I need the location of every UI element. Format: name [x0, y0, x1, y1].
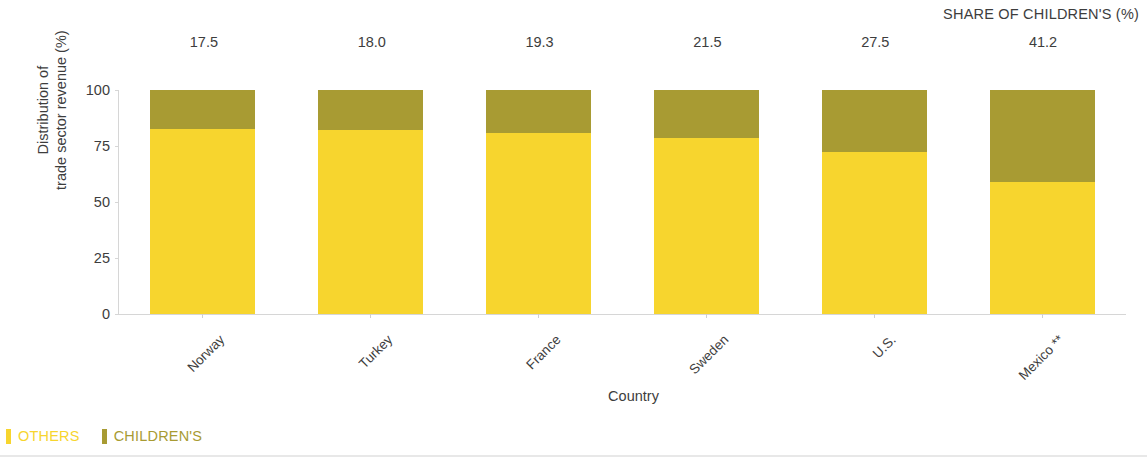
data-label: 18.0 — [317, 34, 427, 50]
data-label-row: 17.518.019.321.527.541.2 — [120, 34, 1125, 56]
y-axis-tick-label: 0 — [102, 306, 110, 322]
y-axis-tick-mark — [115, 258, 119, 259]
bar-turkey[interactable] — [318, 90, 423, 314]
share-of-childrens-header: SHARE OF CHILDREN'S (%) — [943, 6, 1139, 22]
bar-segment-others[interactable] — [318, 130, 423, 314]
bar-france[interactable] — [486, 90, 591, 314]
y-axis-tick-label: 50 — [94, 194, 110, 210]
legend-item[interactable]: CHILDREN'S — [102, 428, 203, 444]
bar-mexico[interactable] — [990, 90, 1095, 314]
x-axis-tick-mark — [202, 314, 203, 318]
bar-segment-childrens[interactable] — [990, 90, 1095, 182]
x-axis-tick-label: Norway — [185, 332, 228, 375]
x-axis-tick-mark — [1042, 314, 1043, 318]
x-axis-tick-label: Mexico ** — [1016, 332, 1067, 383]
bar-segment-others[interactable] — [150, 129, 255, 314]
legend-item[interactable]: OTHERS — [6, 428, 80, 444]
bar-segment-others[interactable] — [486, 133, 591, 314]
bar-segment-childrens[interactable] — [318, 90, 423, 130]
x-axis-tick-mark — [874, 314, 875, 318]
data-label: 19.3 — [485, 34, 595, 50]
legend: OTHERSCHILDREN'S — [6, 428, 202, 444]
x-axis-title: Country — [0, 388, 1147, 404]
bar-segment-others[interactable] — [990, 182, 1095, 314]
y-axis-tick-mark — [115, 90, 119, 91]
x-axis-title-text: Country — [608, 388, 659, 404]
bar-segment-childrens[interactable] — [486, 90, 591, 133]
bar-sweden[interactable] — [654, 90, 759, 314]
y-axis-tick-label: 100 — [86, 82, 110, 98]
y-axis-tick-label: 25 — [94, 250, 110, 266]
bar-segment-childrens[interactable] — [654, 90, 759, 138]
data-label: 21.5 — [652, 34, 762, 50]
y-axis-tick-label: 75 — [94, 138, 110, 154]
x-axis-tick-mark — [538, 314, 539, 318]
legend-swatch-icon — [102, 429, 107, 444]
bar-norway[interactable] — [150, 90, 255, 314]
x-axis-tick-mark — [706, 314, 707, 318]
data-label: 17.5 — [149, 34, 259, 50]
legend-label: OTHERS — [18, 428, 80, 444]
x-axis-tick-label: France — [523, 332, 563, 372]
y-axis-tick-mark — [115, 146, 119, 147]
y-axis-tick-mark — [115, 314, 119, 315]
data-label: 41.2 — [988, 34, 1098, 50]
x-axis-tick-label: U.S. — [870, 332, 899, 361]
x-axis-tick-label: Sweden — [686, 332, 731, 377]
data-label: 27.5 — [820, 34, 930, 50]
y-axis-tick-mark — [115, 202, 119, 203]
plot-area: 0255075100NorwayTurkeyFranceSwedenU.S.Me… — [118, 90, 1126, 315]
stacked-bar-chart-figure: SHARE OF CHILDREN'S (%) 17.518.019.321.5… — [0, 0, 1147, 457]
bar-us[interactable] — [822, 90, 927, 314]
bar-segment-others[interactable] — [654, 138, 759, 314]
bar-segment-childrens[interactable] — [150, 90, 255, 129]
x-axis-tick-mark — [370, 314, 371, 318]
y-axis-title: Distribution of trade sector revenue (%) — [34, 0, 70, 240]
legend-label: CHILDREN'S — [114, 428, 203, 444]
x-axis-tick-label: Turkey — [356, 332, 395, 371]
bar-segment-childrens[interactable] — [822, 90, 927, 152]
bar-segment-others[interactable] — [822, 152, 927, 314]
legend-swatch-icon — [6, 429, 11, 444]
